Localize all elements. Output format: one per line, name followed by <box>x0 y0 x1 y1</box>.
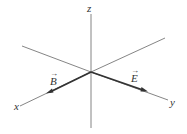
b-vector-arrowhead <box>46 89 54 94</box>
axes <box>20 14 168 128</box>
e-vector-arrowhead <box>141 87 149 92</box>
y-axis-back <box>91 38 165 72</box>
e-vector-label: → E <box>131 73 138 84</box>
b-vector-label: → B <box>50 76 57 87</box>
vector-arrow-icon: → <box>50 70 58 78</box>
vector-arrow-icon: → <box>131 67 139 75</box>
coordinate-diagram <box>0 0 187 134</box>
z-axis-label: z <box>87 3 91 14</box>
x-axis-label: x <box>14 101 19 112</box>
y-axis-label: y <box>170 97 175 108</box>
